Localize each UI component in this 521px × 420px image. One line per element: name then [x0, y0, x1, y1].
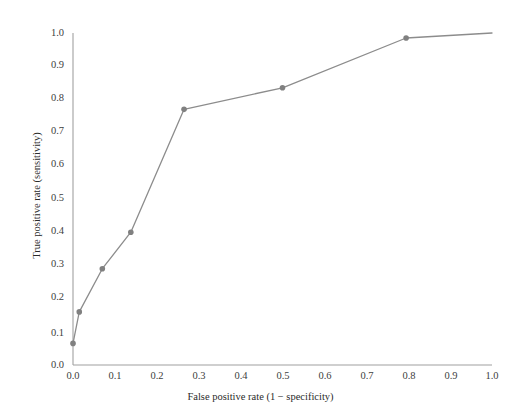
x-tick-label: 0.8 — [394, 370, 424, 381]
y-tick-label: 0.2 — [38, 291, 64, 302]
x-tick-label: 1.0 — [477, 370, 507, 381]
y-tick-label: 0.1 — [38, 327, 64, 338]
x-tick-label: 0.5 — [268, 370, 298, 381]
data-point-marker — [181, 107, 187, 113]
roc-marker-group — [70, 35, 409, 346]
y-tick-label: 0.3 — [38, 258, 64, 269]
roc-chart: 1.0 0.9 0.8 0.7 0.6 0.5 0.4 0.3 0.2 0.1 … — [0, 0, 521, 420]
y-tick-label: 0.0 — [38, 359, 64, 370]
y-tick-label: 0.6 — [38, 158, 64, 169]
data-point-marker — [128, 229, 134, 235]
x-tick-label: 0.0 — [58, 370, 88, 381]
y-tick-label: 0.5 — [38, 192, 64, 203]
x-tick-label: 0.2 — [142, 370, 172, 381]
x-tick-label: 0.6 — [310, 370, 340, 381]
y-tick-label: 0.8 — [38, 92, 64, 103]
x-axis-title: False positive rate (1 − specificity) — [0, 391, 521, 402]
data-point-marker — [403, 35, 409, 41]
y-axis-title: True positive rate (sensitivity) — [31, 96, 42, 296]
data-point-marker — [70, 341, 76, 347]
data-point-marker — [100, 266, 106, 272]
y-tick-label: 0.9 — [38, 59, 64, 70]
x-tick-label: 0.4 — [226, 370, 256, 381]
x-tick-label: 0.9 — [436, 370, 466, 381]
y-tick-label: 0.7 — [38, 125, 64, 136]
data-point-marker — [280, 85, 286, 91]
data-series-group — [70, 33, 492, 346]
x-tick-label: 0.3 — [184, 370, 214, 381]
y-tick-label: 1.0 — [38, 27, 64, 38]
x-tick-label: 0.1 — [100, 370, 130, 381]
data-point-marker — [76, 309, 82, 315]
x-tick-label: 0.7 — [352, 370, 382, 381]
y-tick-label: 0.4 — [38, 225, 64, 236]
roc-curve-line — [73, 33, 492, 343]
axes-group — [73, 33, 492, 365]
plot-area — [0, 0, 521, 420]
